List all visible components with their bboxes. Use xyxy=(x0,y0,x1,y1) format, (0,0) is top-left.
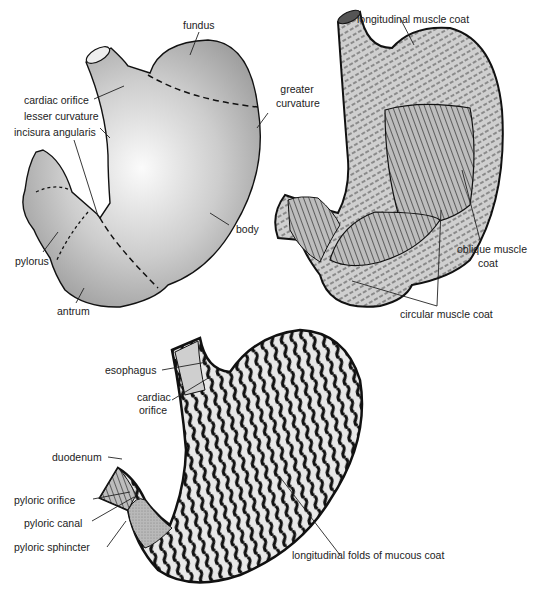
stomach-muscle-illustration xyxy=(275,7,503,306)
label-oblique-muscle-coat-line2: coat xyxy=(478,257,498,269)
label-pyloric-sphincter: pyloric sphincter xyxy=(14,541,90,553)
label-fundus: fundus xyxy=(183,19,215,31)
label-cardiac-orifice-inner-line2: orifice xyxy=(139,404,167,416)
label-oblique-muscle-coat-line1: oblique muscle xyxy=(457,243,527,255)
stomach-external-illustration xyxy=(23,40,260,307)
label-greater-curvature-line2: curvature xyxy=(276,97,320,109)
label-cardiac-orifice-inner-line1: cardiac xyxy=(137,391,171,403)
label-esophagus: esophagus xyxy=(105,364,156,376)
label-pyloric-canal: pyloric canal xyxy=(24,517,82,529)
label-greater-curvature-line1: greater xyxy=(272,83,322,95)
label-cardiac-orifice: cardiac orifice xyxy=(24,94,89,106)
label-body: body xyxy=(236,223,259,235)
label-incisura-angularis: incisura angularis xyxy=(14,126,96,138)
label-pyloric-orifice: pyloric orifice xyxy=(14,494,75,506)
label-lesser-curvature: lesser curvature xyxy=(24,110,99,122)
label-longitudinal-muscle-coat: longitudinal muscle coat xyxy=(357,13,469,25)
label-antrum: antrum xyxy=(57,305,90,317)
label-pylorus: pylorus xyxy=(15,255,49,267)
label-circular-muscle-coat: circular muscle coat xyxy=(400,308,493,320)
stomach-anatomy-figure: fundus cardiac orifice lesser curvature … xyxy=(0,0,535,612)
label-longitudinal-folds: longitudinal folds of mucous coat xyxy=(292,549,444,561)
label-duodenum: duodenum xyxy=(52,451,102,463)
